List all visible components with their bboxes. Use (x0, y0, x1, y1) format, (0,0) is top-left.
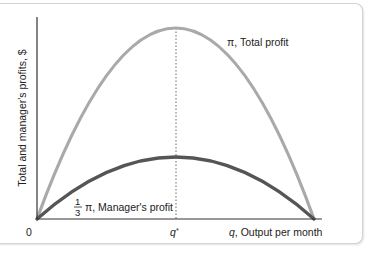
x-axis-label: q, Output per month (229, 226, 323, 238)
y-axis-label: Total and manager's profits, $ (16, 49, 28, 187)
total-profit-label: π, Total profit (227, 36, 289, 48)
q-star-sup: * (176, 227, 179, 234)
fraction-numerator: 1 (75, 196, 80, 207)
fraction-denominator: 3 (75, 207, 80, 218)
manager-profit-label: 1 3 π, Manager's profit (74, 196, 173, 218)
origin-label: 0 (26, 226, 32, 238)
q-star-label: q* (170, 226, 179, 238)
x-axis-label-rest: , Output per month (235, 226, 323, 238)
profit-chart: Total and manager's profits, $ π, Total … (0, 0, 370, 254)
manager-profit-text: π, Manager's profit (85, 201, 173, 213)
